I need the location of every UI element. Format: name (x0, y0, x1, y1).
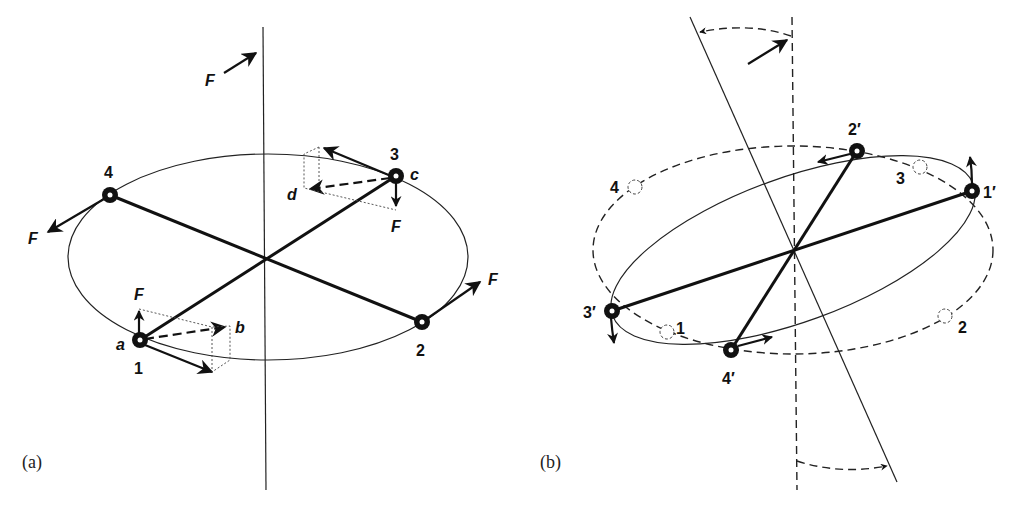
mass-3 (388, 168, 404, 184)
mass-2p-label: 2′ (848, 121, 861, 138)
mass-4-label: 4 (104, 164, 113, 181)
point-c-label: c (410, 166, 419, 183)
axis-force-label: F (205, 72, 216, 89)
mass-1p-tilt-arrow-icon (970, 157, 972, 184)
mass-2 (414, 314, 430, 330)
mass-1-construction-lines (139, 309, 230, 372)
top-tilt-arc-arrow-icon (700, 28, 791, 36)
axis-force-arrow-icon (224, 53, 256, 73)
mass-4p (723, 342, 739, 358)
mass-1 (132, 332, 148, 348)
mass-2p (849, 143, 865, 159)
mass-3p-label: 3′ (583, 304, 596, 321)
mass-4-force-label: F (28, 230, 39, 247)
rod-4-2 (110, 195, 422, 322)
ghost-3-label: 3 (896, 170, 905, 187)
mass-4p-label: 4′ (722, 370, 735, 387)
ghost-mass-1 (660, 325, 674, 339)
mass-2-label: 2 (416, 342, 425, 359)
panel-b: 1′ 2′ 3′ 4′ 1 2 3 4 (b) (540, 17, 998, 490)
mass-2-force-label: F (488, 271, 499, 288)
ghost-2-label: 2 (958, 319, 967, 336)
panel-b-label: (b) (540, 452, 561, 473)
torque-arrow-icon (748, 40, 787, 64)
rotating-masses-diagram: F 1 (0, 0, 1019, 505)
point-b-label: b (235, 319, 245, 336)
ghost-1-label: 1 (676, 320, 685, 337)
ghost-mass-4 (628, 180, 642, 194)
ghost-mass-3 (913, 160, 927, 174)
ghost-mass-2 (938, 309, 952, 323)
panel-a-label: (a) (22, 452, 42, 473)
ghost-4-label: 4 (610, 179, 619, 196)
mass-1p-label: 1′ (983, 184, 996, 201)
mass-1p (964, 183, 980, 199)
mass-3-force-label: F (391, 218, 402, 235)
bottom-tilt-arc-arrow-icon (797, 461, 887, 470)
mass-3-velocity-arrow-icon (324, 148, 391, 176)
point-d-label: d (287, 186, 298, 203)
mass-3p (604, 303, 620, 319)
mass-3p-tilt-arrow-icon (611, 318, 614, 343)
mass-3-label: 3 (390, 146, 399, 163)
mass-1-force-label: F (134, 286, 145, 303)
mass-2-force-arrow-icon (428, 282, 480, 318)
panel-a: F 1 (22, 27, 499, 490)
point-a-label: a (116, 336, 125, 353)
mass-1-label: 1 (134, 360, 143, 377)
mass-4 (102, 187, 118, 203)
